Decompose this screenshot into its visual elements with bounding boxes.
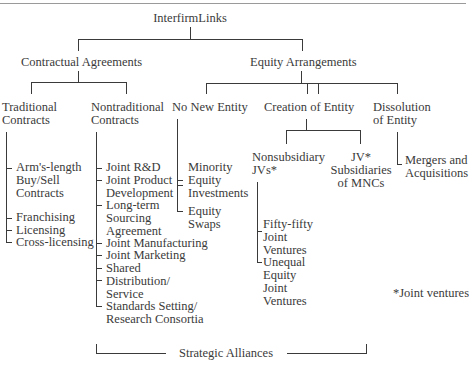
list-item-standards-setting: Standards Setting/ Research Consortia (106, 300, 204, 326)
connector (286, 130, 287, 144)
connector (96, 132, 97, 281)
connector (397, 164, 402, 165)
node-jv-subsidiaries-mncs: JV* Subsidiaries of MNCs (328, 151, 394, 190)
connector (302, 39, 303, 51)
connector (96, 205, 102, 206)
connector (78, 39, 303, 40)
connector (206, 83, 207, 94)
connector (257, 231, 262, 232)
connector (397, 83, 398, 94)
connector (96, 180, 102, 181)
list-item-unequal-equity-jv: Unequal Equity Joint Ventures (263, 256, 307, 308)
connector (6, 132, 7, 243)
list-item-arms-length: Arm's-length Buy/Sell Contracts (16, 161, 81, 200)
node-nonsubsidiary-jvs: Nonsubsidiary JVs* (252, 151, 325, 177)
top-rule (0, 3, 466, 4)
connector (318, 83, 398, 84)
connector (96, 268, 102, 269)
connector (306, 119, 307, 130)
connector (360, 130, 361, 144)
connector (96, 306, 102, 307)
strategic-alliances-label: Strategic Alliances (166, 347, 286, 360)
connector (257, 262, 262, 263)
node-contractual-agreements: Contractual Agreements (21, 56, 142, 69)
node-traditional-contracts: Traditional Contracts (2, 101, 57, 127)
list-item-fifty-fifty-jv: Fifty-fifty Joint Ventures (263, 218, 313, 257)
node-nontraditional-contracts: Nontraditional Contracts (91, 101, 164, 127)
list-item-shared-distribution: Shared Distribution/ Service (106, 262, 170, 301)
connector (6, 218, 12, 219)
connector (397, 132, 398, 165)
connector (96, 255, 102, 256)
bracket-line (287, 353, 367, 354)
footnote: *Joint ventures (393, 287, 469, 300)
connector (307, 83, 308, 94)
bracket-left (96, 344, 97, 353)
bracket-right (366, 344, 367, 354)
connector (96, 168, 102, 169)
connector (206, 83, 319, 84)
connector (177, 119, 178, 185)
connector (6, 168, 12, 169)
connector (78, 71, 79, 82)
connector (126, 82, 127, 94)
connector (257, 182, 258, 263)
list-item-equity-swaps: Equity Swaps (188, 205, 221, 231)
node-dissolution-of-entity: Dissolution of Entity (373, 101, 431, 127)
node-creation-of-entity: Creation of Entity (264, 101, 354, 114)
connector (286, 130, 361, 131)
connector (190, 27, 191, 39)
connector (31, 82, 32, 94)
connector (78, 39, 79, 51)
node-equity-arrangements: Equity Arrangements (250, 56, 357, 69)
bracket-line (96, 353, 166, 354)
connector (177, 211, 183, 212)
list-item-mergers-acquisitions: Mergers and Acquisitions (405, 154, 468, 180)
connector (177, 180, 183, 181)
connector (318, 83, 319, 94)
connector (177, 185, 178, 211)
connector (6, 230, 12, 231)
list-item-joint-product-development: Joint Product Development (106, 174, 173, 200)
node-no-new-entity: No New Entity (172, 101, 248, 114)
connector (31, 82, 127, 83)
list-item-minority-equity: Minority Equity Investments (188, 161, 248, 200)
list-item-cross-licensing: Cross-licensing (16, 236, 94, 249)
connector (96, 280, 97, 307)
node-interfirm-links: InterfirmLinks (150, 12, 230, 25)
list-item-long-term-sourcing: Long-term Sourcing Agreement (106, 199, 162, 238)
connector (96, 243, 102, 244)
connector (6, 242, 12, 243)
